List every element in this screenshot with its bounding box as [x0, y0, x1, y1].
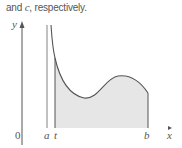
marker-label-t: t	[54, 129, 58, 141]
marker-label-b: b	[144, 129, 150, 141]
shaded-region	[55, 58, 148, 128]
origin-label: 0	[15, 129, 21, 141]
y-axis-arrow-icon	[20, 21, 25, 28]
marker-label-a: a	[44, 129, 50, 141]
y-axis-label: y	[11, 18, 17, 30]
x-axis-label: x	[166, 129, 172, 141]
area-under-curve-diagram: y 0 a t b x	[0, 0, 182, 148]
